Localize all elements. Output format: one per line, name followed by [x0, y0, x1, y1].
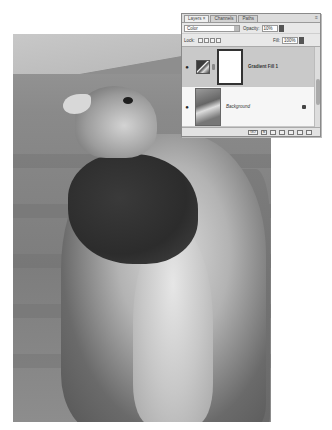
panel-footer: GO fx	[182, 127, 320, 136]
background-thumbnail	[195, 88, 221, 126]
lock-transparency-icon[interactable]	[198, 38, 203, 43]
layers-list: ● Gradient Fill 1 ● Background	[182, 47, 320, 127]
scrollbar-thumb[interactable]	[316, 79, 320, 105]
blend-mode-value: Color	[187, 26, 198, 31]
fill-input[interactable]: 100%	[282, 37, 298, 44]
lock-pixels-icon[interactable]	[204, 38, 209, 43]
lock-row: Lock: Fill: 100%	[182, 34, 320, 47]
blend-row: Color Opacity: 10%	[182, 23, 320, 34]
link-layers-icon[interactable]: GO	[248, 130, 258, 135]
blend-mode-select[interactable]: Color	[184, 25, 240, 32]
gradient-thumbnail	[196, 60, 210, 74]
group-icon[interactable]	[288, 130, 294, 135]
panel-tabs: Layers × Channels Paths ≡	[182, 14, 320, 23]
layers-scrollbar[interactable]	[314, 47, 320, 127]
tab-layers[interactable]: Layers ×	[184, 15, 209, 22]
opacity-input[interactable]: 10%	[262, 25, 278, 32]
layer-mask-thumbnail[interactable]	[217, 49, 243, 85]
lock-all-icon[interactable]	[216, 38, 221, 43]
lock-label: Lock:	[184, 38, 195, 43]
layers-panel: Layers × Channels Paths ≡ Color Opacity:…	[181, 13, 321, 137]
hawk-eye	[123, 97, 133, 104]
layer-name: Gradient Fill 1	[248, 64, 278, 69]
eye-icon[interactable]: ●	[182, 104, 192, 110]
trash-icon[interactable]	[306, 130, 312, 135]
lock-icon	[302, 105, 306, 109]
panel-menu-icon[interactable]: ≡	[315, 15, 318, 20]
layer-background[interactable]: ● Background	[182, 87, 320, 127]
adjustment-icon[interactable]	[279, 130, 285, 135]
fill-label: Fill:	[273, 38, 280, 43]
lock-position-icon[interactable]	[210, 38, 215, 43]
opacity-slider-button[interactable]	[279, 25, 284, 32]
new-layer-icon[interactable]	[297, 130, 303, 135]
tab-channels[interactable]: Channels	[210, 15, 237, 22]
mask-icon[interactable]	[270, 130, 276, 135]
fx-icon[interactable]: fx	[261, 130, 267, 135]
tab-paths[interactable]: Paths	[238, 15, 258, 22]
lock-options	[198, 38, 221, 43]
layer-gradient-fill[interactable]: ● Gradient Fill 1	[182, 47, 320, 87]
link-chain-icon[interactable]	[212, 64, 215, 70]
dropdown-arrow-icon	[234, 26, 239, 31]
eye-icon[interactable]: ●	[182, 64, 192, 70]
opacity-label: Opacity:	[243, 26, 260, 31]
fill-slider-button[interactable]	[299, 37, 304, 44]
layer-name: Background	[226, 104, 250, 109]
hawk-cape	[68, 154, 198, 264]
